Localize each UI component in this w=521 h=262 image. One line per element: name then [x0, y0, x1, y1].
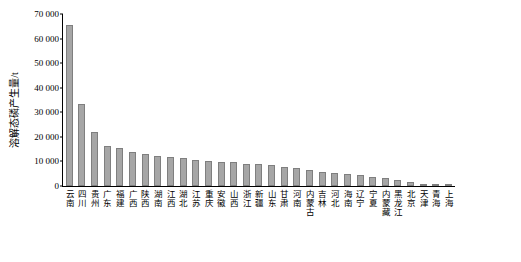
y-axis-tick-mark [60, 63, 63, 64]
bar-slot [354, 14, 367, 186]
bar[interactable] [104, 146, 111, 186]
dissolved-phosphorus-bar-chart: 溶解态磷产生量/t 010 00020 00030 00040 00050 00… [0, 0, 521, 262]
x-axis-labels: 云南四川贵州广东福建广西陕西湖南江西湖北江苏重庆安徽山西浙江新疆山东甘肃河南内蒙… [62, 190, 454, 254]
x-axis-label-slot: 新疆 [252, 190, 265, 254]
x-axis-tick-label: 内蒙藏 [380, 190, 389, 254]
x-axis-label-slot: 上海 [441, 190, 454, 254]
bar[interactable] [445, 184, 452, 186]
x-axis-tick-label: 北京 [405, 190, 414, 254]
y-axis-tick-label: 20 000 [34, 132, 63, 142]
y-axis-tick-label: 30 000 [34, 107, 63, 117]
bar[interactable] [432, 184, 439, 186]
y-axis-tick-label: 60 000 [34, 34, 63, 44]
bar-slot [151, 14, 164, 186]
x-axis-tick-label: 青海 [431, 190, 440, 254]
bar[interactable] [293, 168, 300, 186]
bar-slot [392, 14, 405, 186]
y-axis-tick-mark [60, 87, 63, 88]
bar[interactable] [394, 180, 401, 186]
y-axis-tick-label: 40 000 [34, 83, 63, 93]
bar-slot [114, 14, 127, 186]
x-axis-tick-label: 辽宁 [355, 190, 364, 254]
bar[interactable] [154, 156, 161, 186]
bar[interactable] [129, 152, 136, 186]
bar-slot [442, 14, 455, 186]
bar[interactable] [281, 167, 288, 186]
x-axis-label-slot: 江西 [163, 190, 176, 254]
x-axis-tick-label: 河北 [330, 190, 339, 254]
bar[interactable] [180, 158, 187, 186]
x-axis-tick-label: 甘肃 [279, 190, 288, 254]
x-axis-tick-label: 黑龙江 [393, 190, 402, 254]
bar[interactable] [420, 184, 427, 186]
x-axis-label-slot: 辽宁 [353, 190, 366, 254]
bar-slot [328, 14, 341, 186]
bar[interactable] [218, 162, 225, 186]
x-axis-tick-label: 海南 [342, 190, 351, 254]
bar[interactable] [357, 175, 364, 186]
y-axis-title-text: 溶解态磷产生量/t [6, 30, 21, 190]
bar-slot [379, 14, 392, 186]
y-axis-tick-label: 50 000 [34, 58, 63, 68]
bar[interactable] [230, 162, 237, 186]
x-axis-label-slot: 山西 [226, 190, 239, 254]
x-axis-tick-label: 吉林 [317, 190, 326, 254]
x-axis-tick-label: 湖南 [153, 190, 162, 254]
x-axis-tick-label: 重庆 [203, 190, 212, 254]
bar[interactable] [382, 178, 389, 186]
bar[interactable] [319, 172, 326, 186]
x-axis-label-slot: 青海 [429, 190, 442, 254]
bar[interactable] [192, 160, 199, 186]
bar-slot [291, 14, 304, 186]
bar[interactable] [91, 132, 98, 186]
x-axis-tick-label: 安徽 [216, 190, 225, 254]
x-axis-tick-label: 山西 [228, 190, 237, 254]
x-axis-tick-label: 山东 [266, 190, 275, 254]
x-axis-tick-label: 宁夏 [367, 190, 376, 254]
bar[interactable] [116, 148, 123, 186]
x-axis-tick-label: 天津 [418, 190, 427, 254]
x-axis-label-slot: 内蒙藏 [378, 190, 391, 254]
bar[interactable] [78, 104, 85, 186]
x-axis-tick-label: 江西 [165, 190, 174, 254]
x-axis-tick-label: 福建 [115, 190, 124, 254]
x-axis-label-slot: 江苏 [188, 190, 201, 254]
x-axis-label-slot: 广西 [125, 190, 138, 254]
bar[interactable] [268, 165, 275, 186]
x-axis-tick-label: 广西 [127, 190, 136, 254]
bar-slot [177, 14, 190, 186]
bar-slot [265, 14, 278, 186]
x-axis-tick-label: 四川 [77, 190, 86, 254]
x-axis-label-slot: 云南 [62, 190, 75, 254]
bar[interactable] [142, 154, 149, 186]
x-axis-tick-label: 内蒙古 [304, 190, 313, 254]
x-axis-label-slot: 甘肃 [277, 190, 290, 254]
y-axis-tick-mark [60, 161, 63, 162]
y-axis-tick-mark [60, 14, 63, 15]
bar[interactable] [369, 177, 376, 186]
bar-slot [430, 14, 443, 186]
x-axis-label-slot: 重庆 [201, 190, 214, 254]
x-axis-label-slot: 河北 [327, 190, 340, 254]
x-axis-tick-label: 上海 [443, 190, 452, 254]
bar[interactable] [205, 161, 212, 186]
x-axis-label-slot: 山东 [264, 190, 277, 254]
x-axis-label-slot: 湖北 [176, 190, 189, 254]
bar[interactable] [255, 164, 262, 186]
bar[interactable] [344, 174, 351, 186]
bar[interactable] [167, 157, 174, 186]
x-axis-label-slot: 宁夏 [365, 190, 378, 254]
x-axis-label-slot: 广东 [100, 190, 113, 254]
y-axis-tick-mark [60, 38, 63, 39]
bar[interactable] [306, 170, 313, 186]
x-axis-tick-label: 浙江 [241, 190, 250, 254]
bar[interactable] [331, 173, 338, 186]
x-axis-label-slot: 黑龙江 [391, 190, 404, 254]
x-axis-label-slot: 河南 [290, 190, 303, 254]
bar[interactable] [243, 164, 250, 186]
bar[interactable] [66, 25, 73, 186]
bar-series [63, 14, 455, 186]
bar-slot [63, 14, 76, 186]
bar-slot [341, 14, 354, 186]
bar[interactable] [407, 182, 414, 186]
